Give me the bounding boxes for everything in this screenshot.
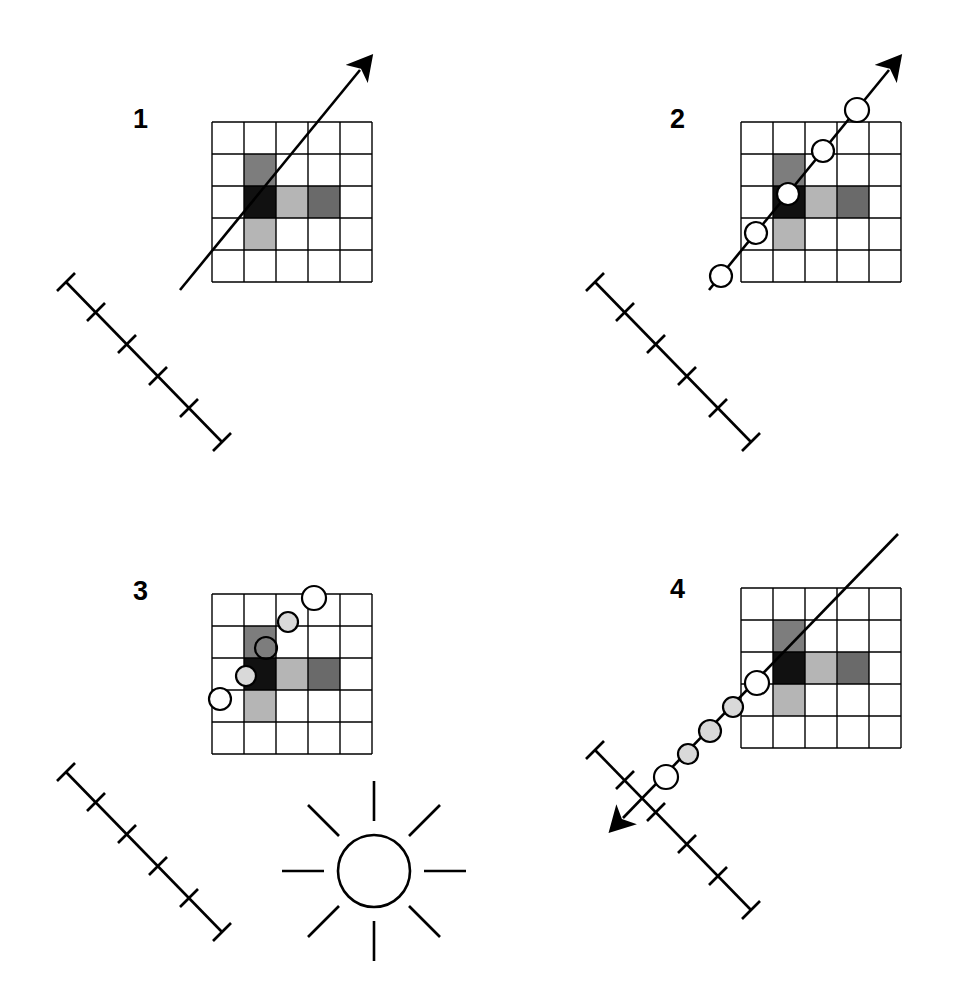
sample-points xyxy=(654,671,769,789)
panel-label: 2 xyxy=(670,104,685,134)
sample-point xyxy=(236,666,256,686)
sample-point xyxy=(777,183,799,205)
sample-point xyxy=(710,265,732,287)
sun-ray xyxy=(409,805,440,836)
grid-cell-shaded xyxy=(244,626,276,658)
grid-cell-shaded xyxy=(773,684,805,716)
grid-cell-shaded xyxy=(805,652,837,684)
sample-point xyxy=(678,744,698,764)
grid-cell-shaded xyxy=(773,218,805,250)
grid-cell-shaded xyxy=(805,186,837,218)
panel-label: 4 xyxy=(670,574,685,604)
transect-arrow xyxy=(180,70,360,290)
sample-point xyxy=(654,765,678,789)
sample-point xyxy=(699,720,721,742)
figure-root: 1 xyxy=(0,0,965,999)
panel-4: 4 xyxy=(483,500,965,999)
grid-cell-shaded xyxy=(244,690,276,722)
grid-cell-shaded xyxy=(276,658,308,690)
sample-point xyxy=(302,586,326,610)
sample-point xyxy=(745,222,767,244)
grid-cell-shaded xyxy=(308,186,340,218)
sun-disc xyxy=(338,835,410,907)
sun-ray xyxy=(308,906,339,937)
sample-point xyxy=(845,98,869,122)
sample-point xyxy=(723,697,743,717)
sample-point xyxy=(278,612,298,632)
sun-ray xyxy=(308,805,339,836)
grid-cell-shaded xyxy=(837,652,869,684)
grid-cell-shaded xyxy=(837,186,869,218)
sample-point xyxy=(812,140,834,162)
sample-point xyxy=(209,688,231,710)
grid-cell-shaded xyxy=(308,658,340,690)
scale-bar xyxy=(586,273,760,451)
grid-cell-shaded xyxy=(276,186,308,218)
sample-point xyxy=(745,671,769,695)
grid-cell-shaded xyxy=(244,154,276,186)
sun-icon xyxy=(282,781,466,961)
panel-1: 1 xyxy=(0,0,483,500)
grid-cell-shaded xyxy=(773,154,805,186)
panel-3: 3 xyxy=(0,500,483,999)
grid-cell-shaded xyxy=(244,218,276,250)
panel-2: 2 xyxy=(483,0,965,500)
panel-label: 1 xyxy=(133,104,148,134)
panel-label: 3 xyxy=(133,576,148,606)
scale-bar xyxy=(57,763,231,941)
scale-bar xyxy=(57,273,231,451)
grid xyxy=(212,122,372,282)
sun-ray xyxy=(409,906,440,937)
